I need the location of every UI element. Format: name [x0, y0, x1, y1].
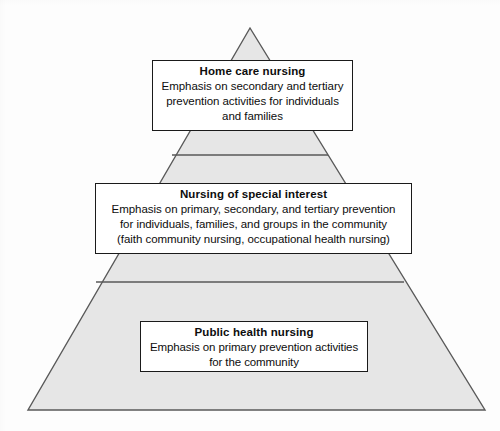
- tier-title-public-health-nursing: Public health nursing: [145, 325, 363, 340]
- tier-box-nursing-of-special-interest: Nursing of special interest Emphasis on …: [95, 183, 412, 254]
- tier-text-line-2: prevention activities for individuals: [157, 94, 348, 109]
- tier-text-line-3: and families: [157, 109, 348, 124]
- tier-title-home-care-nursing: Home care nursing: [157, 64, 348, 79]
- tier-text-line-2: for the community: [145, 355, 363, 370]
- tier-box-public-health-nursing: Public health nursing Emphasis on primar…: [140, 321, 368, 372]
- pyramid-diagram: Home care nursing Emphasis on secondary …: [0, 0, 500, 431]
- tier-text-line-1: Emphasis on primary, secondary, and tert…: [100, 202, 407, 217]
- tier-text-line-3: (faith community nursing, occupational h…: [100, 232, 407, 247]
- tier-title-nursing-of-special-interest: Nursing of special interest: [100, 187, 407, 202]
- tier-text-line-2: for individuals, families, and groups in…: [100, 217, 407, 232]
- tier-box-home-care-nursing: Home care nursing Emphasis on secondary …: [152, 60, 353, 131]
- tier-text-line-1: Emphasis on secondary and tertiary: [157, 79, 348, 94]
- tier-text-line-1: Emphasis on primary prevention activitie…: [145, 340, 363, 355]
